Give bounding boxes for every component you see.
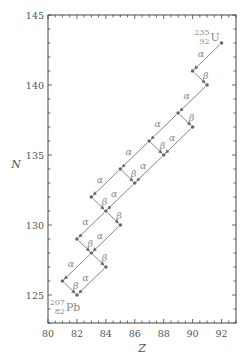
alpha-label: α: [82, 272, 89, 283]
beta-label: β: [202, 70, 209, 81]
x-tick-label: 86: [129, 328, 141, 339]
y-tick-label: 145: [26, 10, 44, 21]
alpha-label: α: [154, 118, 161, 129]
nuclide-point: [162, 153, 166, 157]
beta-label: β: [159, 140, 166, 151]
alpha-label: α: [68, 258, 75, 269]
alpha-label: α: [97, 174, 104, 185]
beta-label: β: [188, 112, 195, 123]
nuclide-point: [176, 111, 180, 115]
y-tick-label: 125: [26, 290, 44, 301]
nuclide-point: [133, 181, 137, 185]
nuclide-point: [119, 223, 123, 227]
beta-label: β: [86, 238, 93, 249]
y-tick-label: 130: [26, 220, 44, 231]
nuclide-point: [75, 293, 79, 297]
alpha-label: α: [82, 216, 89, 227]
alpha-label: α: [140, 160, 147, 171]
nuclide-point: [191, 125, 195, 129]
nuclide-point: [119, 167, 123, 171]
element-symbol: Pb: [66, 301, 80, 314]
alpha-label: α: [198, 48, 205, 59]
alpha-label: α: [126, 146, 133, 157]
isotope-label-u: 23592U: [194, 28, 220, 46]
alpha-label: α: [97, 230, 104, 241]
nuclide-point: [104, 209, 108, 213]
beta-label: β: [72, 280, 79, 291]
beta-label: β: [101, 252, 108, 263]
nuclide-point: [220, 41, 224, 45]
y-tick-label: 140: [26, 80, 44, 91]
atomic-number: 82: [55, 307, 65, 316]
nuclide-point: [205, 83, 209, 87]
y-axis-label: N: [10, 158, 21, 171]
x-tick-label: 80: [42, 328, 54, 339]
decay-chain-chart: 80828486889092125130135140145 αβαβααβααβ…: [0, 0, 248, 362]
x-tick-label: 90: [187, 328, 199, 339]
beta-label: β: [115, 210, 122, 221]
nuclide-point: [191, 69, 195, 73]
x-tick-label: 82: [71, 328, 83, 339]
nuclide-point: [104, 265, 108, 269]
x-tick-label: 92: [215, 328, 227, 339]
alpha-label: α: [169, 132, 176, 143]
x-tick-label: 88: [158, 328, 170, 339]
mass-number: 235: [194, 28, 209, 37]
nuclide-point: [147, 139, 151, 143]
beta-label: β: [130, 168, 137, 179]
nuclide-point: [90, 251, 94, 255]
nuclide-point: [90, 195, 94, 199]
mass-number: 207: [50, 298, 65, 307]
beta-label: β: [101, 196, 108, 207]
isotope-label-pb: 20782Pb: [50, 298, 81, 316]
x-tick-label: 84: [100, 328, 112, 339]
x-axis-label: Z: [137, 342, 146, 355]
atomic-number: 92: [199, 37, 209, 46]
alpha-label: α: [111, 188, 118, 199]
nuclide-point: [75, 237, 79, 241]
element-symbol: U: [211, 31, 220, 44]
y-tick-label: 135: [26, 150, 44, 161]
decay-arrows: αβαβααβααβααβαβαβαββα: [64, 45, 219, 294]
alpha-label: α: [183, 90, 190, 101]
nuclide-point: [61, 279, 65, 283]
